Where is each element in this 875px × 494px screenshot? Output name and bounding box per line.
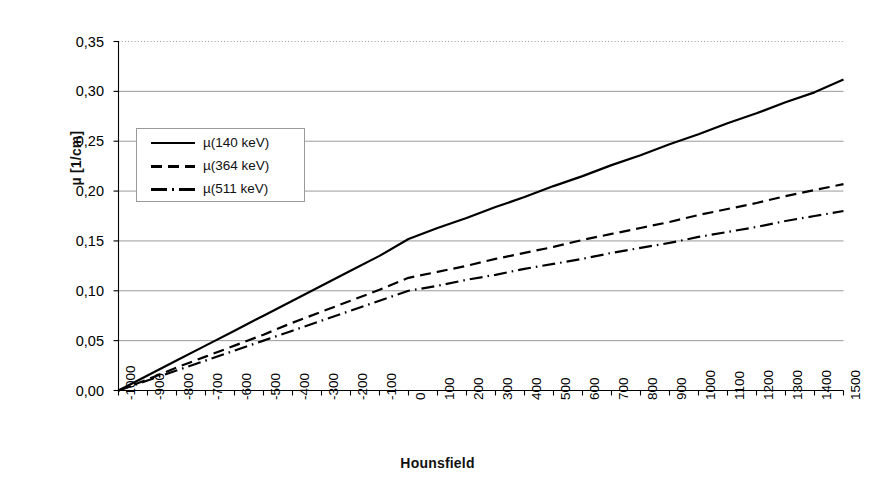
y-axis-tick-label: 0,30 — [48, 84, 104, 99]
x-axis-tick-label: -400 — [298, 372, 312, 399]
x-axis-tick-label: 1500 — [849, 369, 863, 399]
x-axis-tick-label: -200 — [356, 372, 370, 399]
x-axis-tick-label: 900 — [675, 377, 689, 400]
y-axis-tick-label: 0,20 — [48, 184, 104, 199]
x-axis-tick-label: -900 — [153, 372, 167, 399]
x-axis-tick-label: 100 — [443, 377, 457, 400]
chart-legend: µ(140 keV) µ(364 keV) µ(511 keV) — [136, 128, 305, 202]
x-axis-tick-label: 200 — [472, 377, 486, 400]
y-axis-title: µ [1/cm] — [68, 78, 84, 238]
y-axis-tick-label: 0,15 — [48, 234, 104, 249]
x-axis-tick-label: -700 — [211, 372, 225, 399]
legend-swatch-dashed — [151, 165, 195, 168]
x-axis-tick-label: 500 — [559, 377, 573, 400]
y-axis-tick-label: 0,05 — [48, 334, 104, 349]
x-axis-tick-label: 1200 — [762, 369, 776, 399]
y-axis-tick-label: 0,10 — [48, 284, 104, 299]
x-axis-title: Hounsfield — [0, 455, 875, 471]
legend-item-mu511: µ(511 keV) — [145, 178, 300, 200]
y-axis-tick-label: 0,35 — [48, 35, 104, 50]
x-axis-tick-label: 0 — [414, 392, 428, 400]
x-axis-tick-label: 300 — [501, 377, 515, 400]
x-axis-tick-label: 700 — [617, 377, 631, 400]
x-axis-tick-label: 1000 — [704, 369, 718, 399]
x-axis-tick-label: 600 — [588, 377, 602, 400]
x-axis-tick-label: -500 — [269, 372, 283, 399]
x-axis-tick-label: -800 — [182, 372, 196, 399]
chart-figure: µ [1/cm] Hounsfield 0,000,050,100,150,20… — [0, 0, 875, 494]
legend-swatch-solid — [151, 142, 195, 144]
x-axis-tick-label: -300 — [327, 372, 341, 399]
plot-canvas — [0, 0, 875, 494]
x-axis-tick-label: 1300 — [791, 369, 805, 399]
x-axis-tick-label: -100 — [385, 372, 399, 399]
x-axis-tick-label: 400 — [530, 377, 544, 400]
legend-label-mu140: µ(140 keV) — [203, 133, 269, 152]
series-line-mu140 — [119, 79, 844, 390]
legend-label-mu511: µ(511 keV) — [203, 179, 268, 198]
x-axis-tick-label: 1100 — [733, 370, 747, 399]
y-axis-tick-label: 0,00 — [48, 384, 104, 399]
legend-swatch-dashdot — [151, 188, 195, 191]
x-axis-tick-label: 1400 — [820, 369, 834, 399]
legend-item-mu364: µ(364 keV) — [145, 155, 300, 177]
x-axis-tick-label: -1000 — [124, 365, 138, 400]
x-axis-tick-label: 800 — [646, 377, 660, 400]
x-axis-tick-label: -600 — [240, 372, 254, 399]
series-line-mu364 — [119, 184, 844, 390]
y-axis-tick-label: 0,25 — [48, 134, 104, 149]
legend-item-mu140: µ(140 keV) — [145, 132, 300, 154]
legend-label-mu364: µ(364 keV) — [203, 156, 269, 175]
series-line-mu511 — [119, 211, 844, 390]
